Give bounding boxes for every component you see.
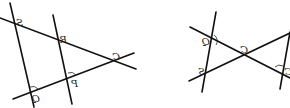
label-p: P [71, 78, 79, 89]
right-figure: Q C S C [189, 12, 290, 92]
label-q: Q [32, 93, 40, 104]
left-figure: S R C P Q [0, 3, 136, 107]
right-steep-line-2 [280, 32, 290, 89]
label-s-right: S [198, 66, 205, 77]
angle-arc-right-vertex [275, 65, 283, 67]
label-c-right-vertex: C [284, 66, 290, 77]
geometry-diagram: S R C P Q Q C S C [0, 0, 290, 108]
label-c: C [112, 51, 120, 62]
angle-arc-q [30, 86, 38, 89]
angle-arc-p [68, 72, 76, 75]
left-steep-line-2 [53, 15, 72, 104]
label-q-right: Q [202, 36, 210, 47]
label-s: S [16, 17, 23, 28]
right-steep-line-1 [202, 12, 216, 92]
label-c-right: C [240, 44, 248, 55]
label-r: R [59, 34, 68, 45]
